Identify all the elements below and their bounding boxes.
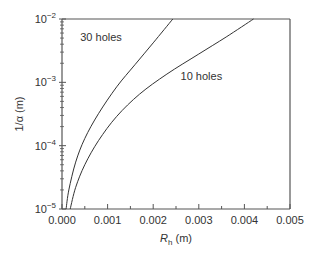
x-tick-label: 0.003 xyxy=(185,214,213,226)
y-tick-label: 10−5 xyxy=(35,201,57,215)
y-tick-label: 10−2 xyxy=(35,11,57,25)
x-tick-label: 0.000 xyxy=(48,214,76,226)
x-tick-label: 0.004 xyxy=(231,214,259,226)
y-tick-label: 10−3 xyxy=(35,74,57,88)
series-annotation: 30 holes xyxy=(80,31,122,43)
plot-axes xyxy=(59,19,290,209)
chart: 0.0000.0010.0020.0030.0040.00510−510−410… xyxy=(0,0,318,258)
x-tick-label: 0.005 xyxy=(276,214,304,226)
x-tick-label: 0.002 xyxy=(139,214,167,226)
y-tick-label: 10−4 xyxy=(35,138,57,152)
y-axis-label: 1/α (m) xyxy=(13,96,25,131)
x-tick-label: 0.001 xyxy=(94,214,122,226)
x-axis-label: Rh (m) xyxy=(160,232,192,247)
plot-labels: 0.0000.0010.0020.0030.0040.00510−510−410… xyxy=(13,11,304,247)
series-annotation: 10 holes xyxy=(181,70,223,82)
plot-curves xyxy=(66,19,253,209)
